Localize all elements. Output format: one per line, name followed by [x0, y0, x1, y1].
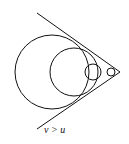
velocity-condition-label: v > u: [44, 124, 65, 135]
wavefront-circle-1: [15, 35, 89, 109]
shock-cone-diagram: [0, 0, 129, 144]
upper-tangent-line: [37, 13, 120, 72]
wavefront-circle-4: [107, 68, 115, 76]
wavefront-circle-3: [85, 64, 101, 80]
wavefront-circle-2: [50, 48, 98, 96]
lower-tangent-line: [37, 72, 120, 129]
